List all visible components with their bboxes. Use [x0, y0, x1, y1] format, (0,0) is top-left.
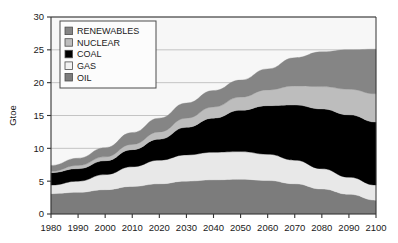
x-tick-label: 2100 — [365, 222, 386, 233]
legend-label-coal: COAL — [77, 49, 102, 59]
x-tick-label: 2060 — [257, 222, 278, 233]
y-tick-label: 10 — [33, 143, 44, 154]
y-tick-label: 5 — [39, 176, 44, 187]
x-tick-label: 2050 — [230, 222, 251, 233]
x-tick-label: 2010 — [122, 222, 143, 233]
y-tick-label: 20 — [33, 77, 44, 88]
legend: RENEWABLESNUCLEARCOALGASOIL — [60, 21, 156, 88]
x-tick-label: 1990 — [68, 222, 89, 233]
y-tick-label: 30 — [33, 11, 44, 22]
stacked-area-chart: 0510152025301980199020002010202020302040… — [0, 0, 398, 243]
x-tick-label: 2070 — [284, 222, 305, 233]
legend-swatch-oil — [65, 74, 73, 82]
legend-label-oil: OIL — [77, 73, 92, 83]
x-tick-label: 2040 — [203, 222, 224, 233]
x-tick-label: 2000 — [95, 222, 116, 233]
y-axis-title: Gtoe — [7, 105, 18, 126]
x-tick-label: 2090 — [338, 222, 359, 233]
x-tick-label: 2020 — [149, 222, 170, 233]
legend-swatch-gas — [65, 62, 73, 70]
y-tick-label: 0 — [39, 208, 44, 219]
chart-canvas: 0510152025301980199020002010202020302040… — [0, 0, 398, 243]
legend-swatch-coal — [65, 50, 73, 58]
x-tick-label: 1980 — [40, 222, 61, 233]
y-axis-ticks: 051015202530 — [33, 11, 51, 219]
y-tick-label: 25 — [33, 44, 44, 55]
legend-label-gas: GAS — [77, 61, 96, 71]
legend-swatch-nuclear — [65, 39, 73, 47]
legend-swatch-renewables — [65, 27, 73, 34]
x-tick-label: 2030 — [176, 222, 197, 233]
x-tick-label: 2080 — [311, 222, 332, 233]
legend-label-nuclear: NUCLEAR — [77, 38, 121, 48]
y-tick-label: 15 — [33, 110, 44, 121]
legend-label-renewables: RENEWABLES — [77, 26, 139, 36]
x-axis-ticks: 1980199020002010202020302040205020602070… — [40, 214, 386, 233]
